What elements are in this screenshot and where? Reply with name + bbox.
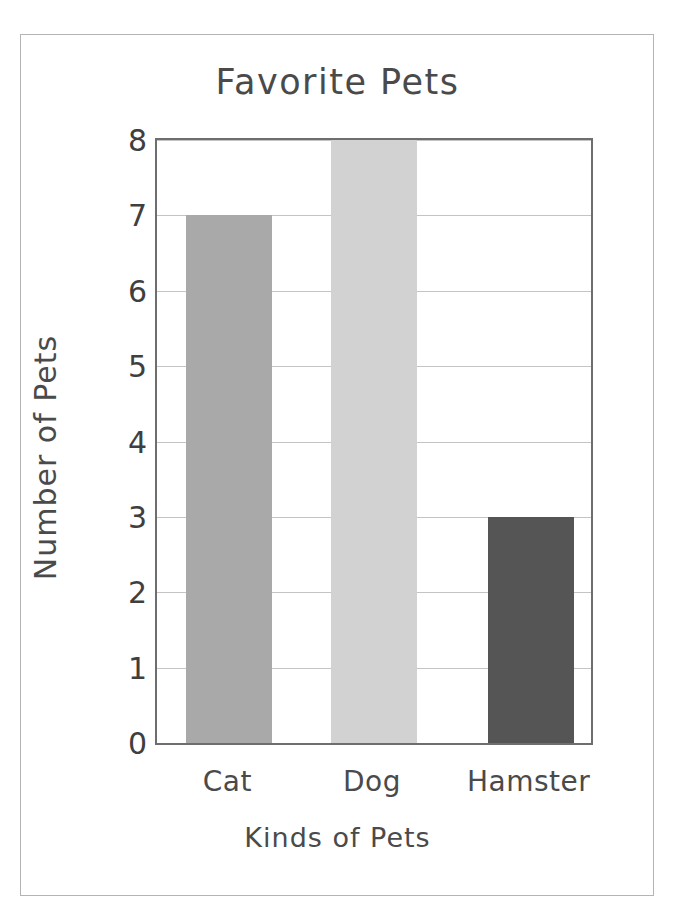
x-axis-tick-labels: CatDogHamster bbox=[155, 765, 593, 805]
x-tick-label-hamster: Hamster bbox=[446, 765, 612, 798]
y-tick-label-0: 0 bbox=[87, 726, 147, 761]
plot-inner bbox=[157, 140, 591, 743]
plot-area bbox=[155, 138, 593, 745]
y-tick-label-8: 8 bbox=[87, 123, 147, 158]
bar-hamster bbox=[488, 517, 574, 743]
x-axis-title: Kinds of Pets bbox=[0, 822, 675, 853]
y-axis-title: Number of Pets bbox=[28, 308, 63, 608]
y-tick-label-3: 3 bbox=[87, 499, 147, 534]
bar-dog bbox=[331, 140, 417, 743]
y-tick-label-5: 5 bbox=[87, 349, 147, 384]
bar-cat bbox=[186, 215, 272, 743]
y-tick-label-4: 4 bbox=[87, 424, 147, 459]
y-tick-label-2: 2 bbox=[87, 575, 147, 610]
x-tick-label-cat: Cat bbox=[144, 765, 310, 798]
y-tick-label-1: 1 bbox=[87, 650, 147, 685]
y-tick-label-7: 7 bbox=[87, 198, 147, 233]
chart-title: Favorite Pets bbox=[0, 62, 675, 102]
y-axis-tick-labels: 012345678 bbox=[85, 138, 147, 745]
y-tick-label-6: 6 bbox=[87, 273, 147, 308]
x-tick-label-dog: Dog bbox=[289, 765, 455, 798]
chart-page: Favorite Pets Number of Pets 012345678 C… bbox=[0, 0, 675, 910]
